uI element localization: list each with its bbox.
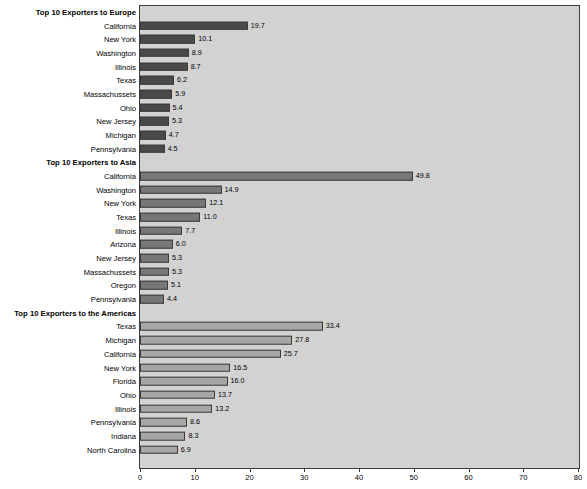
bar-row: Pennsylvania8.6 (0, 415, 587, 429)
bar (140, 363, 230, 372)
x-tick-label: 10 (191, 473, 199, 482)
bar (140, 254, 169, 263)
x-tick-label: 70 (519, 473, 527, 482)
bar-value-label: 13.2 (215, 405, 229, 413)
section-header-row: Top 10 Exporters to Europe (0, 5, 587, 19)
bar-row: Texas6.2 (0, 73, 587, 87)
category-label: Arizona (110, 240, 136, 249)
bar-value-label: 6.9 (181, 446, 191, 454)
bar (140, 49, 189, 58)
bar (140, 281, 168, 290)
bar-value-label: 6.0 (176, 240, 186, 248)
bar-value-label: 8.7 (191, 63, 201, 71)
category-label: California (104, 171, 136, 180)
bar-value-label: 14.9 (225, 186, 239, 194)
category-label: Florida (113, 377, 136, 386)
bar (140, 76, 174, 85)
bar-row: Pennsylvania4.4 (0, 292, 587, 306)
bar (140, 199, 206, 208)
bar-value-label: 10.1 (198, 35, 212, 43)
category-label: Pennsylvania (91, 295, 136, 304)
category-label: Pennsylvania (91, 418, 136, 427)
bar-row: Washington14.9 (0, 183, 587, 197)
bar (140, 445, 178, 454)
bar-row: Florida16.0 (0, 374, 587, 388)
bar-value-label: 8.9 (192, 49, 202, 57)
bar-value-label: 8.3 (188, 432, 198, 440)
category-label: Indiana (111, 431, 136, 440)
bar-row: California25.7 (0, 347, 587, 361)
bar (140, 21, 248, 30)
section-header-row: Top 10 Exporters to the Americas (0, 306, 587, 320)
x-tick-label: 0 (138, 473, 142, 482)
bar-row: Texas11.0 (0, 210, 587, 224)
section-header-label: Top 10 Exporters to Asia (46, 158, 136, 167)
category-label: New York (104, 35, 136, 44)
x-tick-label: 40 (355, 473, 363, 482)
bar (140, 336, 292, 345)
category-label: Massachussets (84, 267, 136, 276)
section-header-row: Top 10 Exporters to Asia (0, 155, 587, 169)
bar-row: Washington8.9 (0, 46, 587, 60)
bar-value-label: 5.1 (171, 281, 181, 289)
bar-value-label: 6.2 (177, 76, 187, 84)
category-label: Illinois (115, 404, 136, 413)
bar-row: Illinois7.7 (0, 224, 587, 238)
category-label: California (104, 349, 136, 358)
bar (140, 185, 222, 194)
bar-row: Michigan27.8 (0, 333, 587, 347)
bar (140, 62, 188, 71)
bar (140, 418, 187, 427)
category-label: Ohio (120, 390, 136, 399)
bar-value-label: 4.4 (167, 295, 177, 303)
bar (140, 377, 228, 386)
category-label: New York (104, 363, 136, 372)
category-label: Michigan (106, 130, 136, 139)
bar-value-label: 49.8 (416, 172, 430, 180)
bar-value-label: 5.4 (173, 104, 183, 112)
category-label: Massachussets (84, 89, 136, 98)
x-tick-label: 60 (464, 473, 472, 482)
bar (140, 240, 173, 249)
bar (140, 90, 172, 99)
category-label: New Jersey (96, 117, 136, 126)
x-tick-label: 50 (410, 473, 418, 482)
bar (140, 172, 413, 181)
bar-value-label: 5.3 (172, 254, 182, 262)
bar (140, 144, 165, 153)
bar-value-label: 5.9 (175, 90, 185, 98)
category-label: Illinois (115, 62, 136, 71)
bar-value-label: 16.0 (231, 377, 245, 385)
bar-row: California49.8 (0, 169, 587, 183)
bar-row: Texas33.4 (0, 320, 587, 334)
section-header-label: Top 10 Exporters to Europe (36, 7, 136, 16)
bar-row: California19.7 (0, 19, 587, 33)
bar-value-label: 5.3 (172, 117, 182, 125)
bar-row: Illinois13.2 (0, 402, 587, 416)
category-label: Texas (116, 213, 136, 222)
category-label: California (104, 21, 136, 30)
category-label: Texas (116, 76, 136, 85)
horizontal-bar-chart: Top 10 Exporters to EuropeCalifornia19.7… (0, 0, 587, 489)
bar-row: Oregon5.1 (0, 279, 587, 293)
bar-row: New Jersey5.3 (0, 251, 587, 265)
bar (140, 350, 281, 359)
category-label: New Jersey (96, 254, 136, 263)
category-label: North Carolina (87, 445, 136, 454)
bar-value-label: 4.7 (169, 131, 179, 139)
bar-row: Illinois8.7 (0, 60, 587, 74)
bar-row: Ohio5.4 (0, 101, 587, 115)
bar (140, 103, 170, 112)
bar (140, 213, 200, 222)
bar-value-label: 7.7 (185, 227, 195, 235)
bar (140, 391, 215, 400)
chart-rows-container: Top 10 Exporters to EuropeCalifornia19.7… (0, 5, 587, 467)
bar (140, 131, 166, 140)
bar (140, 35, 195, 44)
bar-row: Indiana8.3 (0, 429, 587, 443)
x-tick-label: 30 (300, 473, 308, 482)
bar (140, 404, 212, 413)
category-label: New York (104, 199, 136, 208)
bar-row: New York10.1 (0, 32, 587, 46)
bar-row: Arizona6.0 (0, 238, 587, 252)
